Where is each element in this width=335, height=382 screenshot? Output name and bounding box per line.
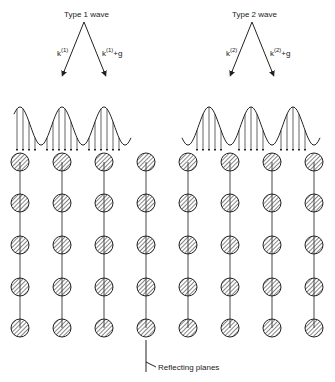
atom xyxy=(53,278,71,296)
atom xyxy=(11,278,29,296)
diffracted-arrow-k2g xyxy=(252,22,273,74)
atom xyxy=(263,194,281,212)
reflecting-planes-annotation: Reflecting planes xyxy=(146,340,219,372)
type1-title: Type 1 wave xyxy=(64,10,109,19)
atom xyxy=(179,319,197,337)
atom xyxy=(179,278,197,296)
atom xyxy=(95,278,113,296)
atom xyxy=(179,236,197,254)
leader-line xyxy=(146,362,156,367)
atom xyxy=(221,278,239,296)
k1-label: k(1) xyxy=(57,47,68,58)
atom xyxy=(95,153,113,171)
atom xyxy=(137,153,155,171)
atom xyxy=(221,319,239,337)
type2-wave-group: Type 2 wave k(2) k(2)+g xyxy=(182,10,320,150)
atom xyxy=(53,319,71,337)
atom xyxy=(305,278,323,296)
type2-title: Type 2 wave xyxy=(232,10,277,19)
type1-wave-group: Type 1 wave k(1) k(1)+g xyxy=(14,10,131,150)
atom xyxy=(179,153,197,171)
atom xyxy=(11,319,29,337)
atom xyxy=(53,194,71,212)
atom xyxy=(95,194,113,212)
atom xyxy=(11,194,29,212)
atom xyxy=(263,236,281,254)
atom xyxy=(95,319,113,337)
bloch-wave-diagram: Type 1 wave k(1) k(1)+g Type 2 wave k(2)… xyxy=(0,0,335,382)
atom xyxy=(137,278,155,296)
type2-intensity-profile xyxy=(182,107,320,150)
atom xyxy=(137,319,155,337)
atom xyxy=(53,236,71,254)
atom xyxy=(137,194,155,212)
atom xyxy=(179,194,197,212)
diffracted-arrow-k1g xyxy=(84,22,105,74)
k1g-label: k(1)+g xyxy=(102,47,122,58)
crystal-lattice xyxy=(11,153,323,337)
atom xyxy=(263,278,281,296)
atom xyxy=(11,153,29,171)
atom xyxy=(137,236,155,254)
k2g-label: k(2)+g xyxy=(270,47,290,58)
atom xyxy=(263,319,281,337)
atom xyxy=(221,194,239,212)
atom xyxy=(95,236,113,254)
atom xyxy=(305,194,323,212)
atom xyxy=(221,153,239,171)
k2-label: k(2) xyxy=(226,47,237,58)
atom xyxy=(221,236,239,254)
type1-intensity-profile xyxy=(14,107,131,150)
atom xyxy=(263,153,281,171)
atom xyxy=(305,153,323,171)
atom xyxy=(11,236,29,254)
atom xyxy=(53,153,71,171)
atom xyxy=(305,319,323,337)
reflecting-planes-label: Reflecting planes xyxy=(158,363,219,372)
atom xyxy=(305,236,323,254)
